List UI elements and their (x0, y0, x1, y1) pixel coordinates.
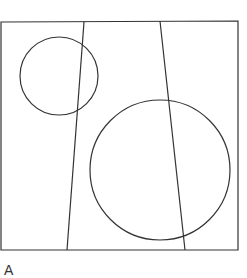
right-line (160, 21, 185, 250)
large-circle (90, 100, 230, 240)
square-frame (1, 21, 238, 250)
panel-label: A (4, 263, 13, 277)
diagram-canvas (0, 0, 247, 278)
left-line (67, 22, 84, 250)
small-circle (20, 37, 98, 115)
